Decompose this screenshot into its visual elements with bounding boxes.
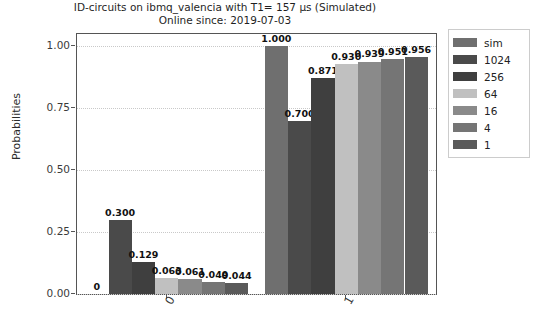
y-tick-label: 0.75 — [47, 101, 70, 113]
bar-value-label: 0.300 — [105, 207, 135, 218]
bar — [202, 282, 225, 294]
y-tick-label: 0.50 — [47, 163, 70, 175]
legend-swatch — [453, 89, 477, 98]
x-tick-label: 0 — [162, 294, 178, 307]
legend-item[interactable]: 64 — [453, 85, 526, 102]
bar — [288, 121, 311, 294]
legend-label: 64 — [484, 88, 497, 100]
y-axis-ticks: 0.000.250.500.751.00 — [28, 33, 70, 295]
bar-value-label: 1.000 — [261, 33, 291, 44]
legend-label: 256 — [484, 71, 504, 83]
legend-label: 16 — [484, 105, 497, 117]
legend-swatch — [453, 106, 477, 115]
bar-value-label: 0.044 — [222, 270, 252, 281]
chart-title-block: ID-circuits on ibmq_valencia with T1= 15… — [0, 1, 450, 27]
chart-title-line-2: Online since: 2019-07-03 — [0, 14, 450, 27]
bar — [265, 46, 288, 294]
legend-swatch — [453, 55, 477, 64]
y-tick-mark — [71, 45, 75, 46]
legend-label: 1 — [484, 139, 491, 151]
plot-frame: 00.3000.1290.0630.0610.0490.0441.0000.70… — [76, 33, 437, 295]
x-tick-label: 1 — [341, 294, 357, 307]
legend-item[interactable]: 1024 — [453, 51, 526, 68]
chart-title-line-1: ID-circuits on ibmq_valencia with T1= 15… — [0, 1, 450, 14]
bar — [381, 59, 404, 294]
bar-value-label: 0.129 — [128, 249, 158, 260]
legend-swatch — [453, 38, 477, 47]
bar — [155, 278, 178, 294]
legend-label: sim — [484, 37, 503, 49]
y-tick-mark — [71, 169, 75, 170]
bar — [225, 283, 248, 294]
legend-item[interactable]: 1 — [453, 136, 526, 153]
bar-value-label: 0.871 — [308, 65, 338, 76]
bar — [358, 62, 381, 295]
bar-value-label: 0.956 — [401, 44, 431, 55]
legend-swatch — [453, 72, 477, 81]
y-axis-label: Probabilities — [10, 67, 23, 187]
legend-item[interactable]: 256 — [453, 68, 526, 85]
legend[interactable]: sim1024256641641 — [448, 29, 530, 158]
bar-value-label: 0.700 — [285, 108, 315, 119]
legend-item[interactable]: 4 — [453, 119, 526, 136]
bar — [405, 57, 428, 294]
y-tick-mark — [71, 231, 75, 232]
bar — [335, 64, 358, 294]
gridline — [77, 294, 436, 295]
legend-label: 1024 — [484, 54, 511, 66]
legend-item[interactable]: 16 — [453, 102, 526, 119]
legend-swatch — [453, 140, 477, 149]
legend-swatch — [453, 123, 477, 132]
plot-area: 00.3000.1290.0630.0610.0490.0441.0000.70… — [77, 34, 436, 294]
y-tick-label: 0.00 — [47, 287, 70, 299]
legend-label: 4 — [484, 122, 491, 134]
y-tick-mark — [71, 107, 75, 108]
bar — [311, 78, 334, 294]
y-tick-mark — [71, 293, 75, 294]
y-tick-label: 1.00 — [47, 39, 70, 51]
legend-item[interactable]: sim — [453, 34, 526, 51]
y-tick-label: 0.25 — [47, 225, 70, 237]
bar — [178, 279, 201, 294]
bar-value-label: 0 — [94, 281, 101, 292]
